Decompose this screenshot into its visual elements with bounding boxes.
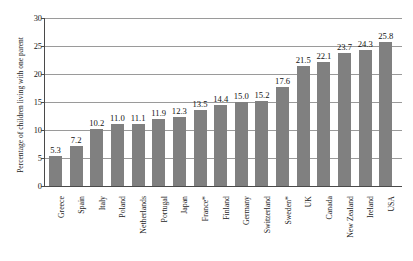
bar [235,102,248,186]
x-axis-category-label: Italy [97,196,109,261]
x-axis-category-label: France* [200,196,212,261]
x-axis-category-label: New Zealand [345,196,357,261]
bar [173,117,186,186]
axis-baseline [45,186,402,187]
bar-value-label: 17.6 [269,76,297,86]
bar [70,146,83,186]
bar [152,119,165,186]
bar [317,62,330,186]
bar [276,87,289,186]
bar-chart: Percentage of children living with one p… [0,0,413,261]
y-tick-mark [41,186,45,187]
gridline [45,18,402,19]
bar [338,53,351,186]
bar-value-label: 15.2 [248,90,276,100]
y-axis-tick-labels: 051015202530 [22,0,42,261]
y-tick-mark [41,18,45,19]
x-axis-category-label: Germany [241,196,253,261]
y-tick-label: 30 [22,14,42,23]
bar-value-label: 25.8 [372,31,400,41]
bar [359,50,372,186]
x-axis-category-label: Ireland [365,196,377,261]
bar [255,101,268,186]
y-tick-label: 5 [22,154,42,163]
bar [90,129,103,186]
x-axis-category-label: Finland [221,196,233,261]
bar [297,66,310,186]
bar-value-label: 22.1 [310,51,338,61]
x-axis-category-label: Canada [324,196,336,261]
bar [194,110,207,186]
bar [111,124,124,186]
y-tick-mark [41,46,45,47]
y-tick-mark [41,74,45,75]
y-tick-label: 25 [22,42,42,51]
x-axis-category-label: Poland [117,196,129,261]
x-axis-category-label: Portugal [159,196,171,261]
x-axis-category-label: UK [303,196,315,261]
y-tick-mark [41,130,45,131]
x-axis-category-label: Netherlands [138,196,150,261]
bar [49,156,62,186]
y-tick-mark [41,102,45,103]
bar [214,105,227,186]
y-tick-label: 0 [22,182,42,191]
x-axis-category-label: Spain [76,196,88,261]
x-axis-category-label: USA [386,196,398,261]
bar [132,124,145,186]
bar-value-label: 7.2 [62,135,90,145]
y-tick-mark [41,158,45,159]
x-axis-category-label: Switzerland [262,196,274,261]
bar [379,42,392,186]
y-tick-label: 10 [22,126,42,135]
x-axis-category-label: Greece [56,196,68,261]
y-tick-label: 15 [22,98,42,107]
y-tick-label: 20 [22,70,42,79]
x-axis-category-label: Sweden* [283,196,295,261]
bar-value-label: 5.3 [42,145,70,155]
x-axis-category-label: Japan [179,196,191,261]
